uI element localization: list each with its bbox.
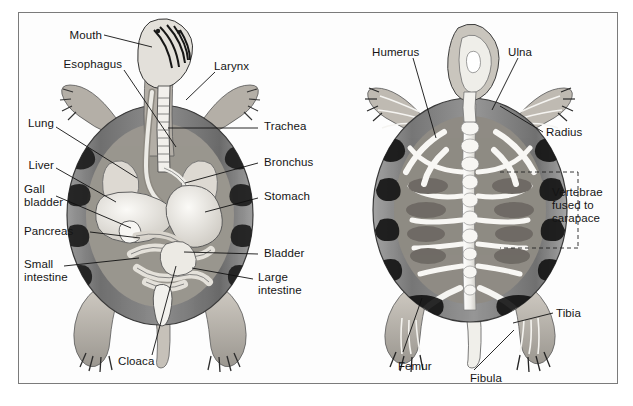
label-bronchus: Bronchus bbox=[264, 156, 313, 169]
label-fibula: Fibula bbox=[470, 372, 502, 385]
label-vertebrae-fused: Vertebrae fused to carapace bbox=[552, 186, 603, 225]
label-small-intestine: Small intestine bbox=[24, 258, 68, 284]
label-bladder: Bladder bbox=[264, 247, 304, 260]
label-trachea: Trachea bbox=[264, 120, 306, 133]
label-mouth: Mouth bbox=[50, 29, 102, 42]
label-lung: Lung bbox=[10, 117, 54, 130]
label-radius: Radius bbox=[546, 126, 582, 139]
label-cloaca: Cloaca bbox=[118, 355, 154, 368]
anatomy-figure: Mouth Esophagus Larynx Lung Trachea Live… bbox=[0, 0, 633, 406]
label-larynx: Larynx bbox=[214, 60, 249, 73]
label-large-intestine: Large intestine bbox=[258, 271, 302, 297]
label-humerus: Humerus bbox=[372, 46, 419, 59]
label-liver: Liver bbox=[12, 159, 54, 172]
label-gall-bladder: Gall bladder bbox=[24, 183, 63, 209]
label-femur: Femur bbox=[398, 360, 432, 373]
label-ulna: Ulna bbox=[508, 46, 532, 59]
label-pancreas: Pancreas bbox=[24, 225, 73, 238]
label-stomach: Stomach bbox=[264, 190, 310, 203]
label-esophagus: Esophagus bbox=[30, 58, 122, 71]
label-tibia: Tibia bbox=[556, 307, 581, 320]
